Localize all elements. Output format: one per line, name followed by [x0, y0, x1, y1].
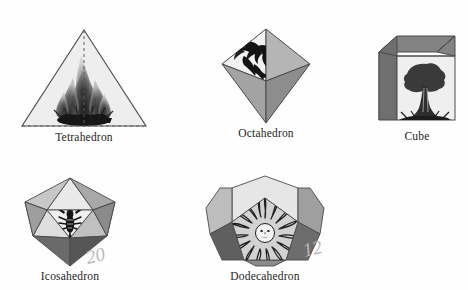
solid-cube: [377, 34, 468, 128]
octahedron-svg: [214, 26, 318, 126]
icosahedron-svg: [11, 176, 129, 268]
solid-octahedron: [214, 26, 334, 126]
caption-cube: Cube: [371, 130, 463, 142]
cube-svg: [377, 34, 463, 128]
figure-cube: Cube: [377, 34, 468, 149]
solid-icosahedron: [11, 176, 141, 268]
figure-page: Tetrahedron: [0, 0, 468, 290]
cube-left-face-lower: [379, 52, 397, 120]
caption-icosahedron: Icosahedron: [10, 270, 130, 282]
solid-tetrahedron: [18, 26, 168, 130]
caption-octahedron: Octahedron: [208, 127, 324, 139]
ico-face-bottom-left: [33, 236, 70, 266]
caption-tetrahedron: Tetrahedron: [16, 131, 152, 143]
tetrahedron-svg: [18, 26, 150, 130]
figure-dodecahedron: Dodecahedron: [204, 174, 339, 290]
dod-face-bottom: [244, 260, 286, 266]
figure-octahedron: Octahedron: [214, 26, 334, 146]
caption-dodecahedron: Dodecahedron: [203, 270, 327, 282]
figure-icosahedron: Icosahedron: [11, 176, 141, 290]
figure-tetrahedron: Tetrahedron: [18, 26, 168, 146]
